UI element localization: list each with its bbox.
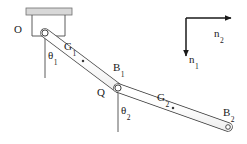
label-endpoint-b2: B2 <box>223 107 234 121</box>
label-joint-b1: B1 <box>113 62 124 76</box>
label-joint-q: Q <box>97 87 105 98</box>
pivot-point-o <box>42 30 48 36</box>
label-com-g2: G2 <box>157 92 169 106</box>
joint-point-q <box>115 85 121 91</box>
ceiling-support-block <box>26 8 72 15</box>
label-origin-o: O <box>14 24 22 35</box>
label-com-g1: G1 <box>64 41 76 55</box>
center-of-mass-dot-g2 <box>172 107 175 110</box>
endpoint-b2 <box>226 125 231 130</box>
center-of-mass-dot-g1 <box>82 60 85 63</box>
mechanics-diagram-canvas: O G1 B1 Q G2 B2 θ1 θ2 n2 n1 <box>0 0 247 144</box>
label-angle-theta2: θ2 <box>121 105 130 119</box>
label-axis-n2: n2 <box>214 28 223 42</box>
label-axis-n1: n1 <box>189 54 198 68</box>
label-angle-theta1: θ1 <box>48 50 57 64</box>
